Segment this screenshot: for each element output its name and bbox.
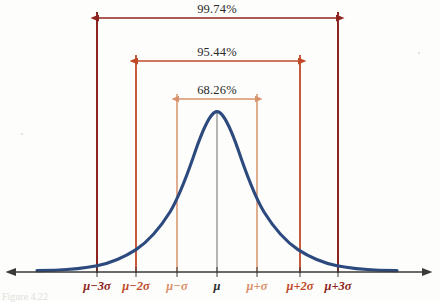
scan-speck [21, 133, 23, 135]
scan-speck [418, 52, 420, 54]
axis-label-minus-3-sigma-text: μ−3σ [83, 279, 111, 293]
percent-label-99: 99.74% [197, 2, 237, 17]
axis-label-minus-2-sigma: μ−2σ [122, 280, 150, 293]
axis-label-plus-3-sigma: μ+3σ [324, 280, 351, 293]
percent-label-68: 68.26% [197, 83, 237, 98]
axis-label-plus-2-sigma: μ+2σ [286, 280, 313, 293]
axis-label-mu: μ [214, 280, 221, 293]
percent-label-95: 95.44% [197, 45, 237, 60]
axis-label-plus-3-sigma-text: μ+3σ [324, 279, 351, 293]
axis-label-minus-3-sigma: μ−3σ [83, 280, 111, 293]
axis-label-minus-1-sigma: μ−σ [166, 280, 187, 293]
axis-label-plus-2-sigma-text: μ+2σ [286, 279, 313, 293]
axis-label-mu-text: μ [214, 279, 221, 293]
axis-label-plus-1-sigma-text: μ+σ [247, 279, 268, 293]
axis-label-minus-2-sigma-text: μ−2σ [122, 279, 150, 293]
axis-label-minus-1-sigma-text: μ−σ [166, 279, 187, 293]
axis-label-plus-1-sigma: μ+σ [247, 280, 268, 293]
figure-caption: Figure 4.22 [2, 291, 48, 302]
